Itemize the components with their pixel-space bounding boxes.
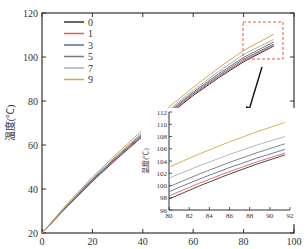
inset-x-tick: 86: [226, 212, 234, 220]
inset-y-label: 温度(℃): [141, 148, 150, 174]
inset-y-tick: 112: [157, 109, 168, 117]
inset-x-tick: 82: [186, 212, 194, 220]
x-tick-label: 80: [239, 236, 249, 247]
inset-y-tick: 98: [160, 194, 168, 202]
inset-y-tick: 110: [157, 121, 168, 129]
x-tick-label: 100: [287, 236, 302, 247]
line-chart: 02040608010020406080100120x温度(℃)01357980…: [0, 0, 308, 249]
inset-x-tick: 88: [246, 212, 254, 220]
inset-x-tick: 84: [206, 212, 214, 220]
inset-y-tick: 96: [160, 207, 168, 215]
y-tick-label: 100: [23, 52, 38, 63]
x-tick-label: 20: [87, 236, 97, 247]
inset-x-tick: 92: [287, 212, 295, 220]
inset-y-tick: 108: [157, 133, 168, 141]
y-tick-label: 40: [28, 184, 38, 195]
legend-label: 1: [88, 28, 93, 39]
inset-y-tick: 104: [157, 158, 168, 166]
arrow-icon: [249, 67, 262, 110]
legend-label: 7: [88, 63, 93, 74]
y-tick-label: 120: [23, 8, 38, 19]
inset-y-tick: 100: [157, 182, 168, 190]
legend-label: 5: [88, 51, 93, 62]
inset-y-tick: 106: [157, 145, 168, 153]
legend: 013579: [64, 17, 93, 86]
y-axis-label: 温度(℃): [4, 105, 17, 142]
y-tick-label: 20: [28, 228, 38, 239]
x-tick-label: 0: [40, 236, 45, 247]
legend-label: 0: [88, 17, 93, 28]
y-tick-label: 80: [28, 96, 38, 107]
x-tick-label: 60: [188, 236, 198, 247]
legend-label: 9: [88, 74, 93, 85]
legend-label: 3: [88, 40, 93, 51]
x-tick-label: 40: [138, 236, 148, 247]
inset-x-tick: 90: [266, 212, 274, 220]
inset-y-tick: 102: [157, 170, 168, 178]
y-tick-label: 60: [28, 140, 38, 151]
